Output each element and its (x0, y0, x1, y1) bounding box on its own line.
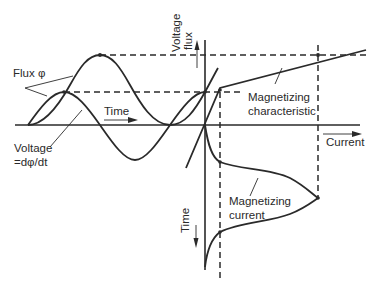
voltage-label-line1: Voltage (14, 142, 52, 154)
magnetizing-current-leader (250, 178, 258, 196)
knee-dot (218, 88, 222, 92)
current-axis-label: Current (326, 136, 365, 148)
voltage-label-line2: =dφ/dt (14, 156, 48, 168)
vertical-axis-label-line1: Voltage (170, 14, 182, 52)
axis-intercept-dot (203, 90, 207, 94)
time-vertical-label: Time (179, 208, 191, 233)
current-knee-dot-lower (218, 230, 222, 234)
time-horizontal-arrow (104, 117, 138, 123)
diagram-canvas: Flux φ Voltage =dφ/dt Time Voltage flux … (0, 0, 374, 295)
voltage-peak-dot (62, 90, 66, 94)
time-vertical-arrow (194, 225, 199, 248)
magnetizing-current-label-line2: current (229, 209, 266, 221)
voltage-waveform (28, 92, 205, 160)
flux-label: Flux φ (13, 67, 45, 79)
magnetizing-characteristic-label-line2: characteristic (248, 105, 316, 117)
vertical-axis-label-line2: flux (182, 32, 194, 50)
current-knee-dot-upper (218, 160, 222, 164)
magnetizing-characteristic-leader (275, 68, 282, 84)
voltage-leader (50, 110, 82, 147)
flux-peak-dot (98, 53, 102, 57)
time-horizontal-label: Time (104, 105, 129, 117)
flux-leader-lower (25, 88, 47, 96)
vertical-axis-arrow (195, 40, 200, 68)
magnetizing-characteristic-label-line1: Magnetizing (248, 91, 310, 103)
magnetizing-current-label-line1: Magnetizing (229, 195, 291, 207)
saturation-peak-dot (316, 53, 320, 57)
current-peak-dot (316, 196, 320, 200)
